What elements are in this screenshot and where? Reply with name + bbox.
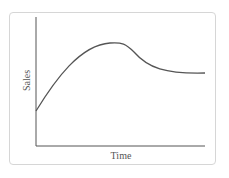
y-axis-label: Sales xyxy=(21,66,32,96)
sales-curve xyxy=(36,43,205,111)
x-axis-label: Time xyxy=(96,150,146,161)
